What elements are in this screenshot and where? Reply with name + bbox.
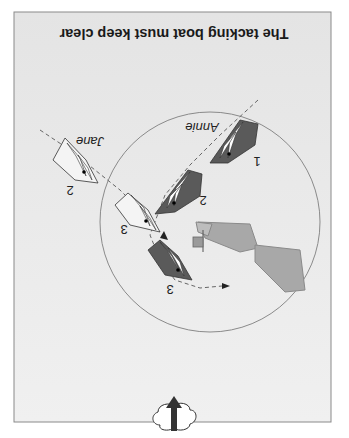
jane-pos2-label: 2: [66, 183, 73, 198]
annie-pos3-label: 3: [166, 282, 173, 297]
annie-name-label: Annie: [185, 120, 219, 135]
diagram-title: The tacking boat must keep clear: [59, 26, 288, 42]
jane-name-label: Jane: [76, 134, 105, 149]
annie-pos2-label: 2: [199, 193, 206, 208]
annie-pos1-label: 1: [253, 154, 260, 169]
jane-pos3-label: 3: [120, 222, 127, 237]
diagram-panel: [14, 12, 331, 422]
diagram: The tacking boat must keep clear 1 Annie…: [0, 0, 349, 438]
